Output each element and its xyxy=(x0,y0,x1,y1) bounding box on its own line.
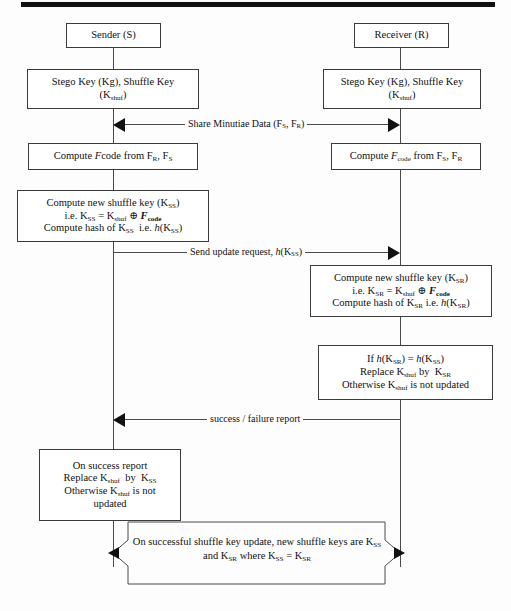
node-sender-onsuccess[interactable]: On success reportReplace Kshuf by KSSOth… xyxy=(39,449,181,521)
node-receiver-keys-text: Stego Key (Kg), Shuffle Key(Kshuf) xyxy=(328,76,476,101)
arrowhead-right-update xyxy=(388,246,400,260)
actor-sender-label: Sender (S) xyxy=(71,29,156,41)
node-receiver-fcode-text: Compute Fcode from FS, FR xyxy=(336,150,476,163)
message-send-update-request-label: Send update request, h(KSS) xyxy=(187,245,305,261)
bottom-note-lines: On successful shuffle key update, new sh… xyxy=(124,535,390,564)
arrowhead-right-share xyxy=(388,118,400,132)
sequence-diagram-page: Sender (S) Receiver (R) Stego Key (Kg), … xyxy=(0,0,511,611)
node-receiver-verify-text: If h(KSR) = h(KSS)Replace Kshuf by KSROt… xyxy=(323,353,488,392)
actor-receiver-label: Receiver (R) xyxy=(359,29,444,41)
node-sender-onsuccess-text: On success reportReplace Kshuf by KSSOth… xyxy=(44,460,176,511)
message-share-minutiae-label: Share Minutiae Data (FS, FR) xyxy=(185,117,307,133)
arrowhead-left-share xyxy=(113,118,125,132)
message-share-minutiae[interactable]: Share Minutiae Data (FS, FR) xyxy=(107,118,407,132)
node-receiver-verify[interactable]: If h(KSR) = h(KSS)Replace Kshuf by KSROt… xyxy=(318,345,493,400)
node-receiver-fcode[interactable]: Compute Fcode from FS, FR xyxy=(331,143,481,170)
node-sender-newkey-text: Compute new shuffle key (KSS)i.e. KSS = … xyxy=(22,197,204,236)
node-sender-keys-text: Stego Key (Kg), Shuffle Key(Kshuf) xyxy=(32,76,194,101)
page-top-rule xyxy=(21,2,495,7)
node-sender-fcode[interactable]: Compute Fcode from FR, FS xyxy=(28,143,198,170)
node-receiver-newkey[interactable]: Compute new shuffle key (KSR)i.e. KSR = … xyxy=(310,265,492,317)
arrowhead-left-report xyxy=(113,413,125,427)
message-success-failure-report-label: success / failure report xyxy=(207,412,303,426)
node-sender-keys[interactable]: Stego Key (Kg), Shuffle Key(Kshuf) xyxy=(27,69,199,109)
message-send-update-request[interactable]: Send update request, h(KSS) xyxy=(113,246,407,260)
actor-sender[interactable]: Sender (S) xyxy=(66,23,161,48)
bottom-note-text: On successful shuffle key update, new sh… xyxy=(124,535,390,564)
message-success-failure-report[interactable]: success / failure report xyxy=(107,413,407,427)
node-sender-fcode-text: Compute Fcode from FR, FS xyxy=(33,150,193,163)
node-receiver-newkey-text: Compute new shuffle key (KSR)i.e. KSR = … xyxy=(315,272,487,311)
node-sender-newkey[interactable]: Compute new shuffle key (KSS)i.e. KSS = … xyxy=(17,190,209,242)
actor-receiver[interactable]: Receiver (R) xyxy=(354,23,449,48)
node-receiver-keys[interactable]: Stego Key (Kg), Shuffle Key(Kshuf) xyxy=(323,69,481,109)
